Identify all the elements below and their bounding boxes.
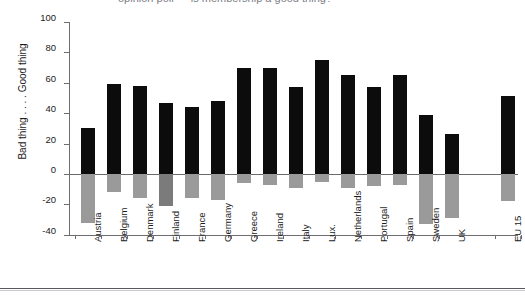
x-tick-label: Sweden: [430, 208, 441, 242]
bar-negative: [445, 174, 459, 218]
bar-negative: [341, 174, 355, 188]
figure-bottom-rule-shadow: [0, 290, 525, 291]
bar-positive: [133, 86, 147, 174]
bar-negative: [263, 174, 277, 185]
x-tick-label: UK: [456, 229, 467, 242]
bar-negative: [133, 174, 147, 198]
x-tick-label: Germany: [222, 203, 233, 242]
x-tick: [495, 235, 496, 239]
bar-positive: [393, 75, 407, 174]
chart-figure: opinion poll — is membership a good thin…: [0, 0, 525, 305]
bar-negative: [185, 174, 199, 198]
bar-positive: [263, 68, 277, 174]
bar-positive: [81, 128, 95, 174]
x-axis-line: [69, 235, 518, 236]
figure-title-cropped: opinion poll — is membership a good thin…: [0, 0, 525, 7]
bar-negative: [159, 174, 173, 206]
bar-negative: [237, 174, 251, 183]
bar-negative: [107, 174, 121, 192]
bar-negative: [367, 174, 381, 186]
bar-positive: [107, 84, 121, 174]
x-tick-label: Finland: [170, 211, 181, 242]
x-tick-label: France: [196, 212, 207, 242]
bar-positive: [211, 101, 225, 174]
bar-positive: [341, 75, 355, 174]
bar-group: [185, 22, 199, 235]
bar-group: [289, 22, 303, 235]
x-tick-label: Ireland: [274, 213, 285, 242]
bar-negative: [211, 174, 225, 200]
x-tick-label: Portugal: [378, 207, 389, 242]
y-tick-label: -40: [22, 230, 56, 231]
x-tick-label: Austria: [92, 212, 103, 242]
x-tick-label: Italy: [300, 225, 311, 242]
x-tick-label: Lux.: [326, 224, 337, 242]
bar-positive: [315, 60, 329, 174]
x-tick: [75, 235, 76, 239]
y-axis-label: Bad thing . . . . Good thing: [17, 2, 28, 202]
bar-group: [419, 22, 433, 235]
x-tick-label: Belgium: [118, 208, 129, 242]
bar-group: [263, 22, 277, 235]
bar-group: [107, 22, 121, 235]
bar-positive: [237, 68, 251, 174]
bar-series-container: [69, 22, 518, 235]
x-tick-label: Denmark: [144, 203, 155, 242]
x-tick-label: EU 15: [512, 216, 523, 242]
bar-group: [315, 22, 329, 235]
bar-group: [393, 22, 407, 235]
bar-group: [367, 22, 381, 235]
bar-negative: [501, 174, 515, 201]
bar-positive: [445, 134, 459, 174]
bar-negative: [315, 174, 329, 182]
x-tick-label: Spain: [404, 218, 415, 242]
bar-group: [159, 22, 173, 235]
bar-positive: [289, 87, 303, 174]
bar-group: [81, 22, 95, 235]
figure-bottom-rule: [0, 288, 525, 289]
bar-positive: [501, 96, 515, 174]
bar-group: [445, 22, 459, 235]
bar-positive: [159, 103, 173, 174]
bar-negative: [289, 174, 303, 188]
x-tick-label: Netherlands: [352, 191, 363, 242]
bar-positive: [185, 107, 199, 174]
x-tick-label: Greece: [248, 211, 259, 242]
bar-group: [501, 22, 515, 235]
bar-group: [237, 22, 251, 235]
bar-positive: [367, 87, 381, 174]
bar-positive: [419, 115, 433, 174]
bar-negative: [393, 174, 407, 185]
figure-title-text: opinion poll — is membership a good thin…: [118, 0, 332, 4]
